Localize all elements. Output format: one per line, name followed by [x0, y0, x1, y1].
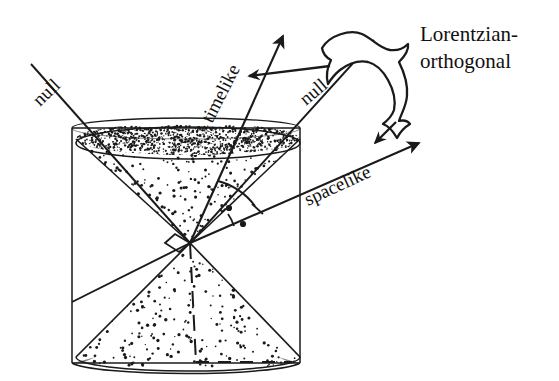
light-cone-group — [73, 125, 304, 371]
annotation-line-1: Lorentzian- — [420, 22, 518, 46]
cylinder-bottom-front-arc — [72, 363, 300, 374]
annotation-pointer-bracket — [249, 32, 410, 143]
null-line-right — [190, 40, 374, 243]
lower-cone-rim-arc — [76, 357, 300, 371]
equal-angle-dot-outer — [226, 205, 232, 211]
lower-cone-stipple — [73, 242, 304, 368]
lower-cone-right-generatrix — [190, 243, 300, 357]
light-cone-diagram: null timelike null spacelike Lorentzian-… — [0, 0, 559, 381]
equal-angle-arc-outer — [218, 181, 255, 206]
upper-cone-right-generatrix — [190, 139, 300, 243]
annotation-line-2: orthogonal — [420, 49, 511, 73]
figure-root: null timelike null spacelike Lorentzian-… — [0, 0, 559, 381]
null-lines-group — [31, 40, 374, 302]
pointer-bracket-outline — [322, 32, 410, 138]
label-timelike: timelike — [197, 61, 244, 126]
labels-group: null timelike null spacelike Lorentzian-… — [28, 22, 518, 210]
lower-cone-left-generatrix — [76, 243, 190, 357]
label-spacelike: spacelike — [301, 161, 374, 210]
equal-angle-dot-inner — [240, 221, 246, 227]
label-null-left: null — [28, 74, 64, 110]
null-line-lower-left-extension — [72, 243, 190, 302]
label-null-right: null — [295, 74, 331, 109]
